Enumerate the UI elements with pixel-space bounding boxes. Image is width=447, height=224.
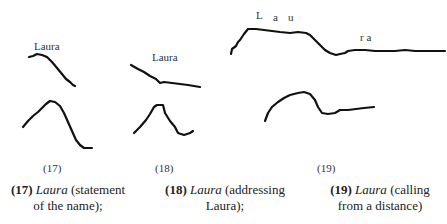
contour-18-lower — [134, 105, 193, 135]
panel-18-label: Laura — [152, 51, 178, 63]
panel-19-syllable-3: u — [288, 11, 294, 23]
caption-19-number: (19) — [330, 182, 352, 197]
caption-19-word: Laura — [355, 182, 387, 197]
panel-17-label: Laura — [34, 40, 60, 52]
panel-19-number: (19) — [317, 162, 335, 174]
caption-18-number: (18) — [165, 182, 187, 197]
caption-17-word: Laura — [36, 182, 68, 197]
panel-17-number: (17) — [43, 162, 61, 174]
caption-17-desc-2: of the name); — [4, 198, 132, 214]
caption-19: (19) Laura (calling from a distance) — [315, 182, 445, 214]
caption-18-word: Laura — [190, 182, 222, 197]
contour-19-lower — [265, 92, 374, 121]
caption-17: (17) Laura (statement of the name); — [4, 182, 132, 214]
contour-19-upper — [231, 29, 445, 55]
contour-17-lower — [23, 101, 92, 148]
panel-19-syllable-1: L — [256, 9, 263, 21]
caption-17-number: (17) — [11, 182, 33, 197]
caption-19-desc-2: from a distance) — [315, 198, 445, 214]
panel-19-tail-label: r a — [360, 31, 371, 43]
caption-18: (18) Laura (addressing Laura); — [155, 182, 295, 214]
contour-18-upper — [131, 65, 200, 87]
panel-18-number: (18) — [155, 162, 173, 174]
caption-17-desc-1: (statement — [71, 182, 125, 197]
caption-19-desc-1: (calling — [390, 182, 430, 197]
caption-18-desc-2: Laura); — [155, 198, 295, 214]
contour-17-upper — [29, 54, 75, 86]
panel-19-syllable-2: a — [273, 11, 278, 23]
caption-18-desc-1: (addressing — [225, 182, 285, 197]
